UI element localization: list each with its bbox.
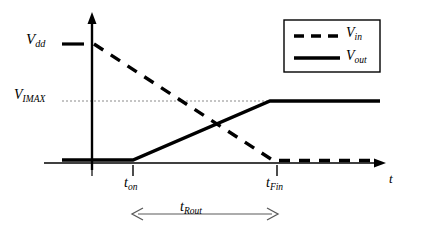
waveform-figure: Vdd VIMAX ton tFin t tRout Vin Vout bbox=[0, 0, 426, 237]
label-vimax-sub: IMAX bbox=[23, 94, 46, 104]
legend-label-vin-sub: in bbox=[355, 32, 362, 42]
legend-label-vout-sub: out bbox=[355, 55, 367, 65]
legend-label-vin: Vin bbox=[346, 26, 362, 40]
label-trout-sub: Rout bbox=[184, 206, 202, 216]
legend-label-vin-base: V bbox=[346, 25, 355, 40]
label-t-axis: t bbox=[389, 172, 393, 185]
y-axis-arrowhead bbox=[88, 12, 97, 24]
plot-canvas bbox=[0, 0, 426, 237]
label-ton-sub: on bbox=[128, 182, 138, 192]
legend-label-vout-base: V bbox=[346, 48, 355, 63]
label-vimax-base: V bbox=[14, 87, 23, 102]
vin-curve bbox=[94, 44, 277, 163]
x-axis-arrowhead bbox=[374, 159, 386, 168]
label-tfin-sub: Fin bbox=[270, 182, 283, 192]
label-ton: ton bbox=[124, 176, 137, 190]
vout-curve bbox=[62, 101, 380, 160]
label-vdd-base: V bbox=[26, 31, 35, 47]
label-trout: tRout bbox=[180, 200, 202, 214]
legend-label-vout: Vout bbox=[346, 49, 367, 63]
label-tfin: tFin bbox=[266, 176, 283, 190]
label-vdd: Vdd bbox=[26, 32, 45, 47]
label-vdd-sub: dd bbox=[35, 38, 45, 49]
label-vimax: VIMAX bbox=[14, 88, 45, 102]
